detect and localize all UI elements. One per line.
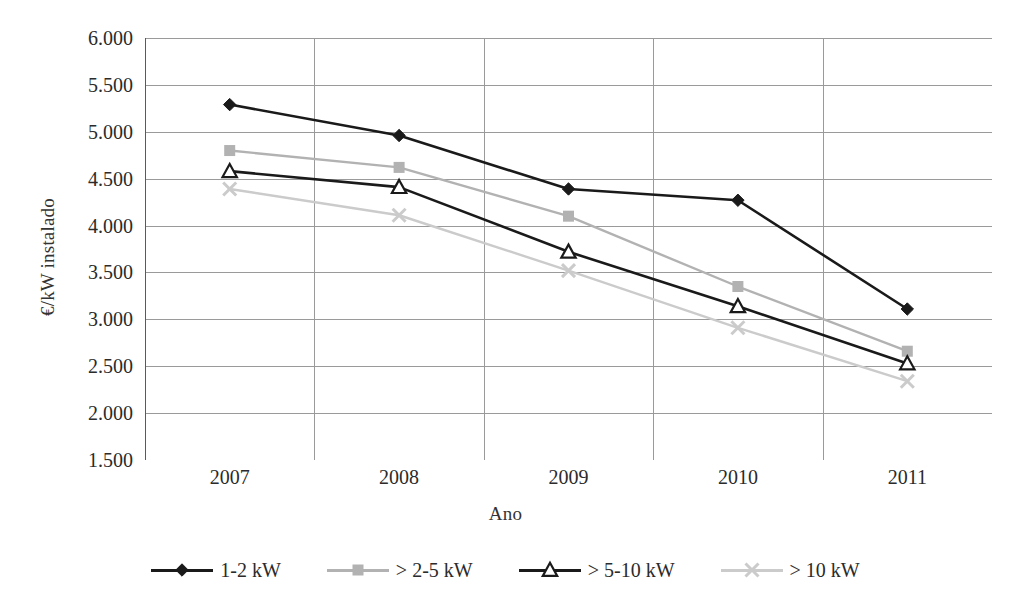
series-line xyxy=(230,171,908,363)
marker-diamond xyxy=(732,194,744,206)
y-tick-label: 3.500 xyxy=(15,261,133,284)
legend-item-1[interactable]: 1-2 kW xyxy=(151,559,281,582)
chart-figure: €/kW instalado Ano 6.0005.5005.0004.5004… xyxy=(0,0,1011,613)
marker-square xyxy=(224,145,235,156)
legend-label: > 2-5 kW xyxy=(396,559,473,582)
y-tick-label: 2.500 xyxy=(15,355,133,378)
marker-triangle xyxy=(542,563,556,576)
y-tick-label: 1.500 xyxy=(15,449,133,472)
legend-marker-square xyxy=(348,560,368,580)
marker-diamond xyxy=(176,564,188,576)
plot-area xyxy=(145,38,992,460)
legend-item-2[interactable]: > 2-5 kW xyxy=(327,559,473,582)
y-tick-label: 6.000 xyxy=(15,27,133,50)
chart-legend: 1-2 kW> 2-5 kW> 5-10 kW> 10 kW xyxy=(0,548,1011,592)
legend-swatch xyxy=(327,561,389,579)
y-tick-label: 4.000 xyxy=(15,214,133,237)
series-line xyxy=(230,105,908,309)
legend-swatch xyxy=(721,561,783,579)
marker-x xyxy=(745,564,758,577)
marker-diamond xyxy=(393,129,405,141)
series-1 xyxy=(224,98,914,315)
legend-label: > 10 kW xyxy=(790,559,860,582)
marker-x xyxy=(901,375,914,388)
x-tick-label: 2010 xyxy=(653,466,823,489)
x-tick-label: 2008 xyxy=(314,466,484,489)
marker-diamond xyxy=(901,303,913,315)
legend-label: 1-2 kW xyxy=(220,559,281,582)
marker-x xyxy=(731,321,744,334)
x-tick-label: 2009 xyxy=(484,466,654,489)
marker-square xyxy=(394,162,405,173)
legend-marker-x xyxy=(742,560,762,580)
marker-diamond xyxy=(562,183,574,195)
marker-diamond xyxy=(224,98,236,110)
y-tick-label: 5.000 xyxy=(15,120,133,143)
x-tick-label: 2007 xyxy=(145,466,315,489)
legend-item-3[interactable]: > 5-10 kW xyxy=(519,559,675,582)
legend-swatch xyxy=(519,561,581,579)
legend-item-4[interactable]: > 10 kW xyxy=(721,559,860,582)
x-axis-title: Ano xyxy=(0,503,1011,525)
marker-x xyxy=(562,264,575,277)
marker-square xyxy=(352,565,363,576)
marker-square xyxy=(732,281,743,292)
y-tick-label: 4.500 xyxy=(15,167,133,190)
legend-marker-diamond xyxy=(172,560,192,580)
y-tick-label: 2.000 xyxy=(15,402,133,425)
legend-label: > 5-10 kW xyxy=(588,559,675,582)
y-tick-label: 3.000 xyxy=(15,308,133,331)
marker-square xyxy=(563,211,574,222)
x-tick-label: 2011 xyxy=(822,466,992,489)
legend-swatch xyxy=(151,561,213,579)
plot-svg xyxy=(145,38,992,460)
legend-marker-triangle-open xyxy=(540,560,560,580)
y-tick-label: 5.500 xyxy=(15,73,133,96)
